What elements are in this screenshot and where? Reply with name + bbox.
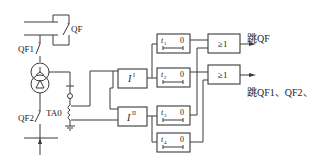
svg-text:II: II <box>132 110 136 116</box>
svg-text:I: I <box>133 72 135 78</box>
svg-text:I: I <box>127 73 132 84</box>
svg-text:*: * <box>38 41 41 46</box>
breaker-qf-symbol: * <box>53 15 70 45</box>
timer-t1: t 1 0 <box>157 34 190 53</box>
breaker-qf1-symbol: * <box>36 35 41 62</box>
or-gate-2: ≥1 <box>208 65 240 84</box>
relay-i1: I I <box>118 69 147 88</box>
output-label-trip-qf1-qf2: 跳QF1、QF2、 <box>247 88 313 98</box>
breaker-qf2-symbol: * <box>35 106 41 138</box>
wiring <box>90 40 256 142</box>
label-qf1: QF1 <box>18 44 34 54</box>
or-gate-1: ≥1 <box>208 34 240 53</box>
current-transformer-ta0 <box>65 72 90 130</box>
transformer-symbol <box>31 63 70 106</box>
svg-text:0: 0 <box>180 108 184 117</box>
svg-text:*: * <box>38 109 41 114</box>
timer-t2: t 2 0 <box>157 68 190 87</box>
label-qf: QF <box>71 24 83 34</box>
svg-text:0: 0 <box>180 135 184 144</box>
timer-t4: t 4 0 <box>157 133 190 152</box>
svg-text:*: * <box>67 22 70 27</box>
timer-t3: t 3 0 <box>157 106 190 125</box>
label-qf2: QF2 <box>18 113 34 123</box>
svg-text:≥1: ≥1 <box>218 39 227 49</box>
svg-text:0: 0 <box>180 36 184 45</box>
output-label-trip-qf: 跳QF <box>247 34 270 44</box>
protection-diagram: * * <box>0 0 315 166</box>
svg-text:≥1: ≥1 <box>218 70 227 80</box>
primary-circuit: * * <box>24 15 90 155</box>
svg-text:0: 0 <box>180 70 184 79</box>
relay-i2: I II <box>118 107 147 126</box>
svg-text:I: I <box>126 112 131 123</box>
label-ta0: TA0 <box>46 108 62 118</box>
